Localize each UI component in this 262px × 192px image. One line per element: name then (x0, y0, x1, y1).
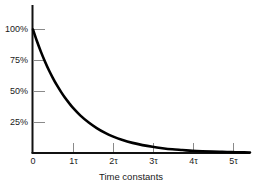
y-tick-label-100: 100% (0, 25, 28, 34)
y-tick-label-50: 50% (0, 87, 28, 96)
x-tick-label-3tau: 3τ (143, 157, 164, 166)
x-tick-label-4tau: 4τ (183, 157, 204, 166)
x-tick-label-1tau: 1τ (63, 157, 84, 166)
y-tick-label-25: 25% (0, 118, 28, 127)
decay-curve (33, 30, 250, 153)
x-axis-title: Time constants (0, 172, 262, 182)
x-tick-label-5tau: 5τ (223, 157, 244, 166)
x-tick-label-0: 0 (23, 157, 43, 166)
y-tick-label-75: 75% (0, 56, 28, 65)
x-tick-label-2tau: 2τ (103, 157, 124, 166)
chart-container: 100% 75% 50% 25% 0 1τ 2τ 3τ 4τ 5τ Time c… (0, 0, 262, 192)
